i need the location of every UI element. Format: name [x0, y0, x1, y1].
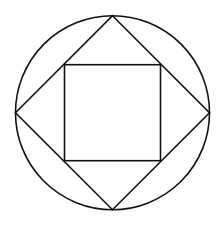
inscribed-diamond	[16, 16, 210, 210]
outer-circle	[16, 16, 210, 210]
inner-square	[65, 65, 161, 161]
geometry-diagram	[0, 0, 224, 226]
